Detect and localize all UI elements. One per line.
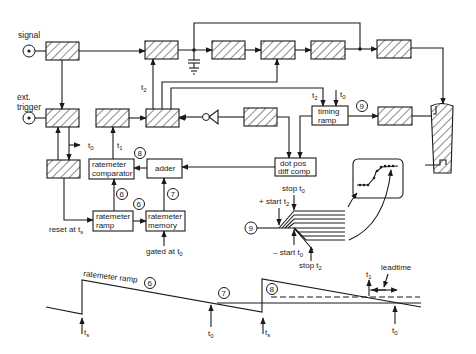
unblank-block (146, 109, 179, 127)
t0-timing-label: t0 (340, 90, 346, 100)
t2-label: t2 (141, 83, 147, 93)
timing-ramp-fan: 9 stop t0 + start t2 – start t0 stop t2 (245, 184, 345, 271)
t1-label: t1 (117, 141, 123, 151)
gated-label: gated at t0 (146, 247, 183, 257)
svg-text:6: 6 (148, 279, 153, 288)
reset-label: reset at ts (49, 225, 83, 235)
ext-trigger-label-2: trigger (17, 102, 41, 112)
circled-6-a: 6 (117, 189, 128, 200)
leadtime-label: leadtime (381, 263, 412, 272)
photomultiplier-icon (203, 110, 219, 124)
t1-block (96, 109, 129, 127)
t1-wave-label: t1 (366, 270, 372, 280)
reset-block (47, 160, 80, 178)
preamp-block (311, 41, 345, 59)
ratemeter-ramp-waveform: ratemeter ramp 6 7 8 ts t0 ts t0 (46, 263, 421, 339)
svg-text:7: 7 (171, 190, 176, 199)
ratemeter-timing-diagram: signal ext. trigger ratemeter comparator… (0, 0, 476, 354)
amp-block (261, 41, 295, 59)
stop-t0-label: stop t0 (282, 184, 306, 194)
plus-start-t2-label: + start t2 (259, 197, 290, 207)
circled-6-b: 6 (134, 199, 145, 210)
ratemeter-memory-block: ratemeter memory (146, 211, 185, 231)
svg-text:diff comp: diff comp (278, 167, 311, 176)
adder-block: adder (147, 159, 182, 178)
svg-text:6: 6 (137, 200, 142, 209)
signal-input-block (46, 42, 79, 60)
t0-label: t0 (88, 141, 94, 151)
signal-input: signal (18, 30, 46, 57)
circled-9-fan: 9 (245, 222, 257, 234)
svg-text:9: 9 (360, 102, 365, 111)
svg-text:comparator: comparator (92, 169, 133, 178)
stop-t2-label: stop t2 (299, 261, 323, 271)
signal-label: signal (18, 30, 40, 40)
t0-wave-label-1: t0 (208, 329, 214, 339)
horizontal-amp-block (378, 107, 412, 125)
svg-text:ramp: ramp (96, 221, 115, 230)
gate-block (145, 41, 178, 59)
ratemeter-comparator-block: ratemeter comparator (89, 159, 134, 179)
svg-text:memory: memory (148, 221, 177, 230)
svg-text:6: 6 (120, 190, 125, 199)
svg-text:ratemeter: ratemeter (96, 212, 131, 221)
t0-wave-label-2: t0 (392, 326, 398, 336)
ext-trigger-input: ext. trigger (17, 92, 46, 124)
vertical-amp-block (377, 40, 411, 58)
circled-7-wave: 7 (219, 288, 230, 299)
ts-label-1: ts (84, 328, 89, 338)
svg-text:ramp: ramp (318, 116, 337, 125)
circled-9-top: 9 (357, 101, 368, 112)
t2-timing-label: t2 (312, 91, 318, 101)
trigger-block (46, 109, 79, 127)
svg-text:8: 8 (138, 149, 143, 158)
svg-text:ratemeter: ratemeter (92, 160, 127, 169)
delay-block (212, 41, 245, 59)
circled-6-wave: 6 (145, 278, 156, 289)
photo-amp-block (244, 108, 277, 126)
dot-pos-diff-comp-block: dot pos diff comp (275, 158, 316, 176)
svg-text:7: 7 (222, 289, 227, 298)
ts-label-2: ts (265, 328, 270, 338)
svg-text:9: 9 (249, 224, 254, 233)
svg-text:ratemeter: ratemeter (148, 212, 183, 221)
ext-trigger-label-1: ext. (17, 92, 31, 102)
circled-8-wave: 8 (267, 284, 278, 295)
circled-8-block: 8 (135, 148, 146, 159)
crt-display-inset (348, 159, 403, 240)
minus-start-t0-label: – start t0 (273, 248, 304, 258)
svg-text:adder: adder (155, 164, 176, 173)
circled-7-block: 7 (168, 189, 179, 200)
svg-text:timing: timing (318, 107, 339, 116)
ratemeter-ramp-wave-label: ratemeter ramp (83, 269, 139, 285)
svg-text:8: 8 (270, 285, 275, 294)
ratemeter-ramp-block: ratemeter ramp (93, 211, 133, 231)
timing-ramp-block: timing ramp (312, 106, 348, 125)
